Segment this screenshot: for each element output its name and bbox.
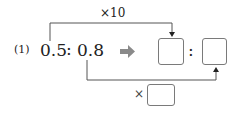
top-multiplier-label: ×10 — [100, 6, 125, 20]
right-term: 0.8 — [77, 40, 104, 60]
left-term: 0.5 — [40, 40, 67, 60]
right-arrow-icon — [120, 45, 135, 58]
bottom-multiplier-prefix: × — [134, 87, 144, 101]
answer-box-right[interactable] — [202, 38, 227, 65]
answer-box-left[interactable] — [158, 38, 184, 65]
up-arrowhead-icon — [213, 67, 219, 72]
down-arrowhead-icon — [169, 32, 175, 37]
answer-separator: : — [188, 40, 194, 60]
problem-number: (1) — [14, 43, 30, 56]
bottom-multiplier-box[interactable] — [147, 84, 175, 106]
ratio-separator: : — [66, 39, 72, 59]
